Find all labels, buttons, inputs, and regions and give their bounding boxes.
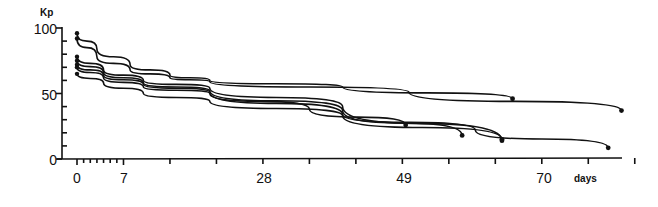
markers-group [75, 31, 624, 150]
y-tick-label-0: 0 [49, 152, 57, 168]
data-point-end [460, 133, 465, 138]
x-tick-label-28: 28 [256, 170, 272, 186]
data-point-start [75, 65, 79, 69]
series-line-curve-1 [77, 33, 513, 99]
y-tick-label-100: 100 [34, 21, 58, 37]
x-axis [57, 158, 622, 159]
data-point-end [619, 108, 624, 113]
data-point-start [75, 36, 79, 40]
series-line-curve-2 [77, 38, 621, 110]
data-point-start [75, 31, 79, 35]
x-axis-unit: days [574, 173, 597, 184]
y-tick-label-50: 50 [41, 87, 57, 103]
data-point-start [75, 59, 79, 63]
x-tick-label-49: 49 [396, 170, 412, 186]
data-point-end [606, 145, 611, 150]
x-tick-label-70: 70 [536, 170, 552, 186]
chart: Kp 100 50 0 0 7 28 49 70 days [0, 0, 658, 207]
x-tick-label-0: 0 [73, 170, 81, 186]
data-point-start [75, 55, 79, 59]
data-point-end [500, 137, 505, 142]
data-point-start [75, 72, 79, 76]
x-tick-label-7: 7 [120, 170, 128, 186]
series-group [77, 33, 621, 148]
y-axis-unit: Kp [40, 7, 53, 18]
data-point-end [403, 123, 408, 128]
axes [56, 27, 635, 165]
data-point-end [510, 96, 515, 101]
